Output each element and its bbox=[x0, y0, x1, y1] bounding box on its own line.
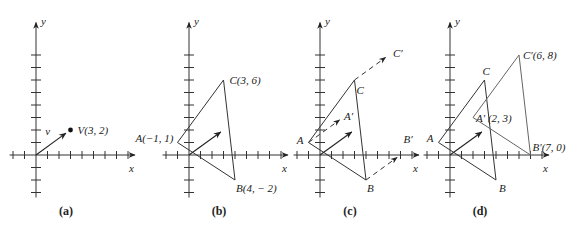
translation-vector bbox=[189, 132, 221, 155]
panel-a: xy(a)V(3, 2)v bbox=[10, 15, 135, 219]
vertex-b-prime-label: B′(7, 0) bbox=[533, 141, 566, 154]
triangle-abc bbox=[439, 80, 497, 180]
panel-caption: (c) bbox=[343, 204, 356, 218]
translation-path-b bbox=[366, 158, 397, 181]
vertex-a-label: A(−1, 1) bbox=[135, 132, 174, 145]
y-axis-label: y bbox=[193, 15, 199, 27]
translation-diagram: xy(a)V(3, 2)vxy(b)A(−1, 1)B(4, − 2)C(3, … bbox=[0, 0, 578, 231]
x-axis-label: x bbox=[412, 162, 418, 174]
translation-path-a bbox=[309, 120, 340, 143]
vertex-a-prime-label: A′ (2, 3) bbox=[475, 112, 512, 125]
vertex-c-label: C bbox=[357, 84, 365, 96]
vertex-b-label: B(4, − 2) bbox=[236, 182, 277, 195]
vertex-b-label: B bbox=[499, 182, 506, 194]
vector-v-label: v bbox=[45, 125, 50, 137]
vertex-a-label: A bbox=[426, 132, 434, 144]
translation-path-c bbox=[355, 58, 386, 81]
x-axis-label: x bbox=[128, 162, 134, 174]
point-v-label: V(3, 2) bbox=[78, 124, 109, 137]
x-axis-label: x bbox=[281, 162, 287, 174]
vertex-b-label: B bbox=[367, 182, 374, 194]
translation-vector bbox=[450, 132, 482, 155]
translation-vector bbox=[320, 132, 352, 155]
vertex-c-label: C bbox=[483, 65, 491, 77]
vertex-c-prime-label: C′(6, 8) bbox=[523, 49, 557, 62]
vertex-c-label: C(3, 6) bbox=[230, 74, 262, 87]
panel-caption: (b) bbox=[212, 204, 227, 218]
y-axis-label: y bbox=[40, 15, 46, 27]
vertex-a-label: A bbox=[296, 134, 304, 146]
y-axis-label: y bbox=[324, 15, 330, 27]
y-axis-label: y bbox=[454, 15, 460, 27]
panel-b: xy(b)A(−1, 1)B(4, − 2)C(3, 6) bbox=[135, 15, 288, 219]
panel-c: xy(c)ABCA′B′C′ bbox=[294, 15, 419, 219]
panel-caption: (d) bbox=[473, 204, 488, 218]
triangle-abc bbox=[178, 80, 236, 180]
point-v bbox=[68, 128, 73, 133]
panel-caption: (a) bbox=[59, 204, 73, 218]
x-axis-label: x bbox=[542, 162, 548, 174]
vector-v bbox=[36, 133, 66, 155]
vertex-a-prime-label: A′ bbox=[343, 110, 354, 122]
vertex-c-prime-label: C′ bbox=[393, 47, 403, 59]
vertex-b-prime-label: B′ bbox=[404, 133, 414, 145]
panel-d: xy(d)ABCA′ (2, 3)B′(7, 0)C′(6, 8) bbox=[424, 15, 566, 219]
